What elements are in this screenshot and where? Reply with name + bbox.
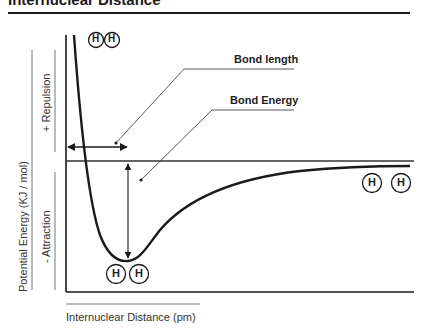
- bond-length-leader: [116, 69, 294, 143]
- y-axis-label: Potential Energy (KJ / mol): [17, 161, 29, 292]
- h-atom-label: H: [368, 176, 376, 188]
- h-atom-label: H: [92, 33, 99, 44]
- repulsion-label: + Repulsion: [40, 74, 52, 132]
- bond-length-label: Bond length: [234, 53, 298, 65]
- h-atom-label: H: [108, 33, 115, 44]
- bond-energy-label: Bond Energy: [230, 94, 298, 106]
- bond-energy-leader: [141, 110, 294, 180]
- h-atom-label: H: [135, 267, 143, 279]
- h-atom-label: H: [112, 267, 120, 279]
- attraction-label: - Attraction: [40, 210, 52, 263]
- h-atom-label: H: [397, 176, 405, 188]
- energy-diagram: [0, 0, 424, 333]
- x-axis-label: Internuclear Distance (pm): [66, 311, 196, 323]
